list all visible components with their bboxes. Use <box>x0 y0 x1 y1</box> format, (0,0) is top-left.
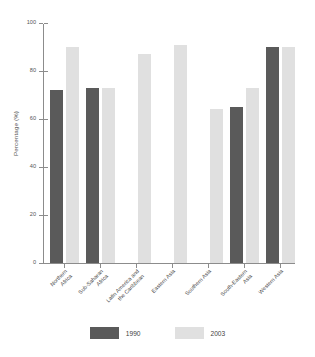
y-tick-label: 60 <box>30 115 36 121</box>
bar-group <box>50 24 79 263</box>
y-tick: 20 <box>39 215 43 216</box>
bar-1990 <box>266 47 279 263</box>
x-axis-line <box>43 263 295 264</box>
y-tick-label: 100 <box>27 19 36 25</box>
bar-group <box>230 24 259 263</box>
y-tick-inner <box>44 23 48 24</box>
y-tick: 40 <box>39 167 43 168</box>
y-tick: 80 <box>39 71 43 72</box>
y-tick-inner <box>44 119 48 120</box>
bar-2003 <box>102 88 115 263</box>
bar-2003 <box>66 47 79 263</box>
bar-2003 <box>246 88 259 263</box>
bar-1990 <box>50 90 63 263</box>
bar-2003 <box>210 109 223 263</box>
bar-2003 <box>138 54 151 263</box>
y-tick-inner <box>44 215 48 216</box>
legend-swatch <box>175 327 204 339</box>
bar-group <box>158 24 187 263</box>
legend-swatch <box>90 327 119 339</box>
legend-label: 2003 <box>211 330 226 337</box>
chart-legend: 19902003 <box>0 327 315 339</box>
bar-group <box>86 24 115 263</box>
bar-group <box>266 24 295 263</box>
bar-2003 <box>174 45 187 263</box>
legend-label: 1990 <box>126 330 141 337</box>
legend-entry: 2003 <box>175 327 226 339</box>
legend-entry: 1990 <box>90 327 141 339</box>
bar-group <box>122 24 151 263</box>
plot-area: 020406080100 <box>43 24 295 264</box>
y-tick-inner <box>44 71 48 72</box>
y-tick-inner <box>44 167 48 168</box>
y-axis-title: Percentage (%) <box>12 89 19 179</box>
bar-group <box>194 24 223 263</box>
y-tick: 100 <box>39 23 43 24</box>
y-axis-line <box>43 24 44 264</box>
bar-1990 <box>86 88 99 263</box>
bar-2003 <box>282 47 295 263</box>
y-tick-label: 40 <box>30 163 36 169</box>
y-tick: 0 <box>39 263 43 264</box>
y-tick-label: 0 <box>33 259 36 265</box>
bar-1990 <box>230 107 243 263</box>
y-tick-label: 80 <box>30 67 36 73</box>
bar-chart: Percentage (%) 020406080100 NorthernAfri… <box>0 0 315 357</box>
y-tick-label: 20 <box>30 211 36 217</box>
y-tick: 60 <box>39 119 43 120</box>
